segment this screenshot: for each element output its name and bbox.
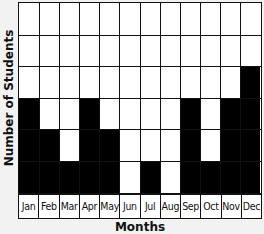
x-axis-tick-labels: JanFebMarAprMayJunJulAugSepOctNovDec xyxy=(18,194,262,219)
bar-apr xyxy=(79,99,100,194)
x-tick-label: Apr xyxy=(79,195,99,218)
bar-jul xyxy=(140,162,161,194)
bar-mar xyxy=(59,162,80,194)
bar-may xyxy=(99,130,120,193)
x-tick-label: Dec xyxy=(241,195,261,218)
x-axis-label: Months xyxy=(18,220,262,234)
x-tick-label: May xyxy=(99,195,119,218)
y-axis-label: Number of Students xyxy=(2,28,18,168)
bar-jan xyxy=(19,99,40,194)
x-tick-label: Oct xyxy=(200,195,220,218)
x-tick-label: Jan xyxy=(19,195,38,218)
x-tick-label: Jun xyxy=(119,195,139,218)
grid-row-line xyxy=(19,35,261,36)
x-tick-label: Mar xyxy=(59,195,79,218)
bar-sep xyxy=(180,99,201,194)
grid-row-line xyxy=(19,66,261,67)
bar-oct xyxy=(200,162,221,194)
bar-dec xyxy=(240,67,261,193)
x-tick-label: Nov xyxy=(221,195,241,218)
bar-feb xyxy=(39,130,60,193)
x-tick-label: Aug xyxy=(160,195,180,218)
bar-nov xyxy=(220,99,241,194)
x-tick-label: Sep xyxy=(180,195,200,218)
grid-row-line xyxy=(19,161,261,162)
x-tick-label: Feb xyxy=(38,195,58,218)
plot-area xyxy=(18,2,262,194)
grid-row-line xyxy=(19,129,261,130)
x-tick-label: Jul xyxy=(140,195,160,218)
grid-row-line xyxy=(19,98,261,99)
